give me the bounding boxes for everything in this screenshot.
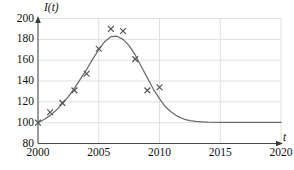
x-axis-label: t [283, 131, 286, 143]
data-point-marker-x [47, 109, 53, 115]
x-tick-label: 2020 [267, 147, 294, 159]
y-axis-arrow [35, 16, 41, 23]
data-point-marker-x [120, 28, 126, 34]
y-axis-label: I(t) [44, 1, 59, 13]
x-tick-label: 2015 [206, 147, 234, 159]
y-tick-label: 160 [4, 54, 34, 66]
y-tick-label: 140 [4, 75, 34, 87]
x-tick-label: 2010 [146, 147, 174, 159]
chart-container: I(t) t 200180160140120100802000200520102… [0, 0, 294, 170]
data-point-marker-x [108, 26, 114, 32]
y-tick-label: 100 [4, 117, 34, 129]
chart-plot-area [0, 0, 294, 170]
x-tick-label: 2000 [24, 147, 52, 159]
y-tick-label: 200 [4, 13, 34, 25]
y-tick-label: 120 [4, 96, 34, 108]
y-tick-label: 180 [4, 33, 34, 45]
data-point-marker-x [59, 100, 65, 106]
x-tick-label: 2005 [85, 147, 113, 159]
data-point-marker-x [144, 87, 150, 93]
